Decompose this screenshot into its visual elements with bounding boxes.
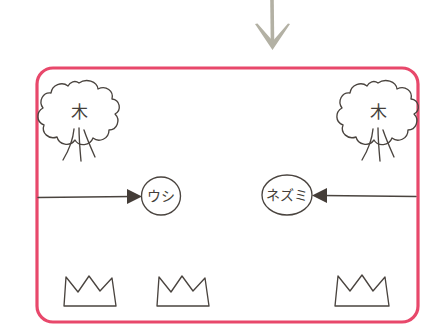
downward-arrow xyxy=(255,0,290,50)
tree-right: 木 xyxy=(337,81,418,161)
animal-cow-label: ウシ xyxy=(147,188,175,204)
bush-2 xyxy=(157,276,209,306)
bush-3-shape xyxy=(335,275,389,306)
arrow-into-mouse-head xyxy=(312,188,327,203)
arrow-into-mouse xyxy=(312,188,416,203)
tree-left: 木 xyxy=(38,81,119,161)
animal-mouse-label: ネズミ xyxy=(266,187,308,203)
animal-mouse: ネズミ xyxy=(262,175,312,215)
downward-arrow-shaft xyxy=(272,0,273,44)
bush-2-shape xyxy=(157,276,209,306)
bush-1-shape xyxy=(64,276,116,306)
animal-cow: ウシ xyxy=(142,177,181,215)
arrow-into-cow-shaft xyxy=(38,197,132,198)
tree-right-label: 木 xyxy=(370,102,387,122)
tree-left-branch-right xyxy=(84,130,95,157)
scene-drawing: 木 木 ウシ ネズミ xyxy=(0,0,430,327)
tree-left-label: 木 xyxy=(71,102,88,122)
bush-3 xyxy=(335,275,389,306)
diagram-canvas: 木 木 ウシ ネズミ xyxy=(0,0,430,327)
arrow-into-cow xyxy=(38,189,142,204)
arrow-into-cow-head xyxy=(127,189,142,204)
tree-right-branch-right xyxy=(383,130,394,157)
bush-1 xyxy=(64,276,116,306)
arrow-into-mouse-shaft xyxy=(322,196,416,197)
